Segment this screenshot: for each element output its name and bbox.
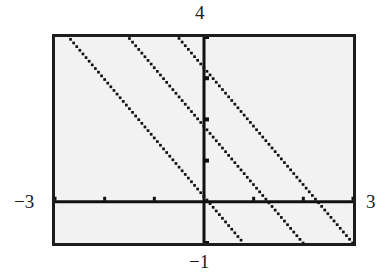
data-point <box>165 81 168 84</box>
data-point <box>224 92 227 95</box>
data-point <box>178 96 181 99</box>
data-point <box>230 99 233 102</box>
data-point <box>199 121 202 124</box>
data-point <box>265 139 268 142</box>
data-point <box>218 213 221 216</box>
data-point <box>168 85 171 88</box>
data-point <box>150 133 153 136</box>
data-point <box>85 56 88 59</box>
y-axis-max-label: 4 <box>195 3 205 22</box>
data-point <box>159 144 162 147</box>
data-point <box>141 52 144 55</box>
data-point <box>252 183 255 186</box>
data-point <box>88 60 91 63</box>
data-point <box>327 212 330 215</box>
data-point <box>134 44 137 47</box>
x-axis-max-label: 3 <box>366 192 376 211</box>
data-point <box>199 191 202 194</box>
data-point <box>103 78 106 81</box>
data-point <box>150 63 153 66</box>
data-point <box>277 154 280 157</box>
data-point <box>190 180 193 183</box>
data-point <box>345 234 348 237</box>
data-point <box>206 70 209 73</box>
data-point <box>156 70 159 73</box>
data-point <box>258 132 261 135</box>
data-point <box>230 158 233 161</box>
data-point <box>175 92 178 95</box>
data-point <box>79 49 82 52</box>
data-point <box>212 206 215 209</box>
data-point <box>175 162 178 165</box>
data-point <box>159 74 162 77</box>
data-point <box>255 128 258 131</box>
data-point <box>274 150 277 153</box>
data-point <box>261 194 264 197</box>
data-point <box>100 75 103 78</box>
data-point <box>240 239 243 242</box>
data-point <box>187 177 190 180</box>
data-point <box>106 82 109 85</box>
data-point <box>153 66 156 69</box>
data-point <box>134 115 137 118</box>
data-point <box>314 198 317 201</box>
data-point <box>305 187 308 190</box>
data-point <box>348 238 351 241</box>
data-point <box>190 110 193 113</box>
data-point <box>280 158 283 161</box>
data-point <box>193 184 196 187</box>
data-point <box>258 191 261 194</box>
data-point <box>246 176 249 179</box>
data-point <box>255 187 258 190</box>
data-point <box>339 227 342 230</box>
data-point <box>333 220 336 223</box>
data-point <box>165 151 168 154</box>
data-point <box>240 110 243 113</box>
data-point <box>131 41 134 44</box>
data-point <box>234 103 237 106</box>
data-point <box>119 96 122 99</box>
series-group <box>69 37 353 243</box>
y-axis-min-label: −1 <box>189 252 209 271</box>
data-point <box>218 85 221 88</box>
data-point <box>268 143 271 146</box>
data-point <box>292 172 295 175</box>
data-point <box>168 155 171 158</box>
data-point <box>196 188 199 191</box>
data-point <box>131 111 134 114</box>
data-point <box>336 223 339 226</box>
data-point <box>271 205 274 208</box>
data-point <box>206 199 209 202</box>
data-point <box>199 63 202 66</box>
data-point <box>203 195 206 198</box>
data-point <box>193 55 196 58</box>
data-point <box>261 136 264 139</box>
data-point <box>289 169 292 172</box>
data-point <box>172 88 175 91</box>
data-point <box>144 55 147 58</box>
data-point <box>72 42 75 45</box>
data-point <box>82 53 85 56</box>
data-point <box>162 148 165 151</box>
data-point <box>237 235 240 238</box>
data-point <box>249 121 252 124</box>
data-point <box>234 232 237 235</box>
plot-frame <box>52 34 356 246</box>
data-point <box>237 106 240 109</box>
data-point <box>280 216 283 219</box>
data-point <box>277 212 280 215</box>
data-point <box>283 161 286 164</box>
data-point <box>184 44 187 47</box>
data-point <box>209 202 212 205</box>
data-point <box>274 209 277 212</box>
data-point <box>283 220 286 223</box>
data-point <box>243 172 246 175</box>
data-point <box>308 190 311 193</box>
data-point <box>187 48 190 51</box>
data-point <box>209 132 212 135</box>
data-point <box>234 161 237 164</box>
data-point <box>153 137 156 140</box>
data-point <box>91 64 94 67</box>
data-point <box>141 122 144 125</box>
data-point <box>330 216 333 219</box>
